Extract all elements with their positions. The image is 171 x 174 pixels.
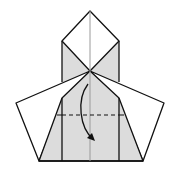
origami-diagram — [0, 0, 171, 174]
